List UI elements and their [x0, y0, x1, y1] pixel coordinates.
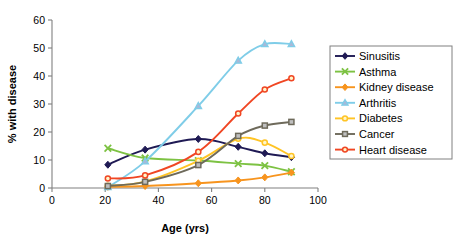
- data-point-marker: [262, 123, 267, 128]
- data-point-marker: [196, 149, 201, 154]
- data-point-marker: [236, 111, 241, 116]
- y-tick-label: 50: [33, 42, 45, 54]
- x-tick-label: 40: [153, 194, 165, 206]
- y-tick-label: 30: [33, 98, 45, 110]
- legend-marker: [343, 147, 348, 152]
- data-point-marker: [105, 183, 110, 188]
- disease-prevalence-line-chart: 0102030405060020406080100 Age (yrs)% wit…: [0, 0, 457, 243]
- data-point-marker: [262, 41, 269, 47]
- axes-layer: [48, 20, 318, 192]
- legend-label: Kidney disease: [359, 81, 434, 93]
- legend-label: Diabetes: [359, 112, 403, 124]
- data-point-marker: [262, 140, 267, 145]
- data-point-marker: [195, 180, 201, 187]
- data-point-marker: [262, 87, 267, 92]
- data-point-marker: [235, 177, 241, 184]
- y-tick-label: 10: [33, 154, 45, 166]
- y-tick-label: 40: [33, 70, 45, 82]
- data-point-marker: [143, 179, 148, 184]
- data-point-marker: [235, 143, 241, 150]
- legend: SinusitisAsthmaKidney diseaseArthritisDi…: [330, 46, 452, 159]
- data-point-marker: [143, 173, 148, 178]
- data-point-marker: [289, 154, 294, 159]
- chart-container: 0102030405060020406080100 Age (yrs)% wit…: [0, 0, 457, 243]
- legend-marker: [343, 132, 348, 137]
- x-axis-title: Age (yrs): [161, 222, 209, 234]
- data-point-marker: [289, 76, 294, 81]
- legend-label: Arthritis: [359, 97, 397, 109]
- legend-label: Sinusitis: [359, 50, 400, 62]
- y-tick-label: 60: [33, 14, 45, 26]
- x-tick-label: 80: [259, 194, 271, 206]
- x-tick-label: 100: [309, 194, 327, 206]
- y-tick-label: 20: [33, 126, 45, 138]
- y-axis-title: % with disease: [6, 65, 18, 143]
- data-point-marker: [262, 174, 268, 181]
- series-kidney-disease: [105, 169, 295, 190]
- data-point-marker: [105, 176, 110, 181]
- legend-marker: [343, 116, 348, 121]
- legend-label: Asthma: [359, 66, 397, 78]
- data-point-marker: [196, 162, 201, 167]
- data-point-marker: [142, 146, 148, 153]
- legend-label: Heart disease: [359, 144, 427, 156]
- data-point-marker: [289, 119, 294, 124]
- data-point-marker: [195, 136, 201, 143]
- data-point-marker: [262, 150, 268, 157]
- data-point-marker: [236, 133, 241, 138]
- series-layer: [105, 41, 295, 191]
- legend-label: Cancer: [359, 128, 395, 140]
- data-point-marker: [105, 161, 111, 168]
- x-tick-label: 60: [206, 194, 218, 206]
- y-tick-label: 0: [39, 182, 45, 194]
- x-tick-label: 20: [99, 194, 111, 206]
- x-tick-label: 0: [49, 194, 55, 206]
- data-point-marker: [288, 41, 295, 47]
